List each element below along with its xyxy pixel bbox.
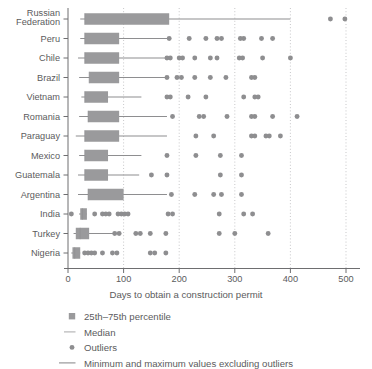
outlier-point — [266, 231, 271, 236]
outlier-point — [170, 114, 175, 119]
outlier-point — [179, 75, 184, 80]
boxplot-row-india — [69, 208, 255, 220]
outlier-point — [193, 153, 198, 158]
boxplot-row-vietnam — [81, 91, 260, 103]
outlier-point — [163, 251, 168, 256]
outlier-point — [225, 114, 230, 119]
outlier-point — [117, 231, 122, 236]
legend-item-outliers: Outliers — [70, 342, 118, 353]
outlier-point — [193, 134, 198, 139]
iqr-box — [85, 169, 108, 181]
xtick-labels-group: 0100200300400500 — [65, 274, 353, 284]
outlier-point — [328, 17, 333, 22]
outlier-point — [92, 212, 97, 217]
outlier-point — [252, 134, 257, 139]
outlier-point — [219, 192, 224, 197]
outlier-point — [295, 114, 300, 119]
outlier-point — [256, 95, 261, 100]
outlier-point — [203, 36, 208, 41]
boxplot-row-chile — [78, 52, 293, 64]
boxplot-row-argentina — [78, 189, 244, 201]
legend-label: Outliers — [84, 342, 117, 353]
outlier-point — [167, 36, 172, 41]
outlier-point — [192, 192, 197, 197]
outlier-point — [201, 114, 206, 119]
outlier-point — [260, 56, 265, 61]
outlier-point — [165, 173, 170, 178]
outlier-point — [110, 251, 115, 256]
category-label: Nigeria — [31, 248, 61, 258]
outlier-point — [252, 75, 257, 80]
outlier-point — [112, 231, 117, 236]
outlier-point — [192, 75, 197, 80]
legend-box-swatch — [69, 313, 75, 319]
legend-label: Median — [84, 327, 115, 338]
outlier-point — [241, 212, 246, 217]
category-label: Guatemala — [15, 170, 61, 180]
outlier-point — [148, 251, 153, 256]
category-label: Romania — [23, 112, 61, 122]
category-label: Turkey — [32, 229, 60, 239]
iqr-box — [72, 247, 80, 259]
category-label: Brazil — [37, 73, 60, 83]
category-label: Argentina — [21, 190, 61, 200]
category-labels-group: RussianFederationPeruChileBrazilVietnamR… — [15, 8, 61, 258]
outlier-point — [219, 36, 224, 41]
outlier-point — [114, 251, 119, 256]
iqr-box — [76, 228, 89, 240]
x-tick-label: 100 — [116, 274, 131, 284]
outlier-point — [175, 75, 180, 80]
iqr-box — [88, 189, 124, 201]
boxplot-row-guatemala — [78, 169, 244, 181]
iqr-box — [80, 208, 87, 220]
iqr-box — [85, 91, 108, 103]
iqr-box — [89, 72, 119, 84]
boxplot-row-turkey — [74, 228, 271, 240]
category-label: Chile — [39, 53, 60, 63]
outlier-point — [215, 56, 220, 61]
x-axis-title: Days to obtain a construction permit — [109, 289, 262, 300]
outlier-point — [217, 212, 222, 217]
outlier-point — [218, 173, 223, 178]
outlier-point — [252, 114, 257, 119]
x-tick-label: 500 — [338, 274, 353, 284]
outlier-point — [69, 212, 74, 217]
outlier-point — [148, 231, 153, 236]
legend-item-whisker: Minimum and maximum values excluding out… — [59, 358, 293, 369]
outlier-point — [342, 17, 347, 22]
outlier-point — [250, 212, 255, 217]
outlier-point — [169, 192, 174, 197]
outlier-point — [240, 56, 245, 61]
outlier-point — [232, 231, 237, 236]
category-label: Vietnam — [26, 92, 60, 102]
outlier-point — [208, 56, 213, 61]
outlier-point — [180, 56, 185, 61]
outlier-point — [288, 56, 293, 61]
iqr-box — [88, 111, 119, 123]
gridlines-group — [124, 8, 346, 269]
legend-item-median: Median — [64, 327, 115, 338]
boxplot-figure: RussianFederationPeruChileBrazilVietnamR… — [0, 0, 372, 369]
outlier-point — [133, 231, 138, 236]
outlier-point — [211, 134, 216, 139]
boxplot-row-romania — [79, 111, 299, 123]
boxplot-row-mexico — [79, 150, 244, 162]
boxplot-row-russian-federation — [80, 13, 347, 25]
outlier-point — [152, 251, 157, 256]
outlier-point — [166, 212, 171, 217]
outlier-point — [170, 212, 175, 217]
boxplot-row-peru — [80, 33, 275, 45]
outlier-point — [192, 56, 197, 61]
outlier-point — [241, 36, 246, 41]
category-label: India — [40, 209, 61, 219]
iqr-box — [85, 150, 108, 162]
iqr-box — [85, 130, 119, 142]
x-tick-label: 200 — [172, 274, 187, 284]
iqr-box — [85, 13, 170, 25]
x-tick-label: 300 — [227, 274, 242, 284]
outlier-point — [197, 114, 202, 119]
boxplot-row-nigeria — [71, 247, 168, 259]
outlier-point — [215, 36, 220, 41]
category-label: Mexico — [31, 151, 60, 161]
legend-item-box: 25th–75th percentile — [69, 311, 171, 322]
